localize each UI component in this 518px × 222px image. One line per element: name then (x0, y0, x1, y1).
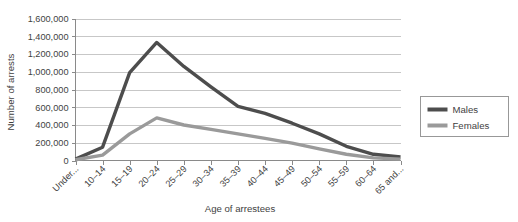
line-chart: 0200,000400,000600,000800,0001,000,0001,… (0, 0, 518, 222)
y-tick-label: 400,000 (35, 120, 68, 130)
y-axis-title: Number of arrests (5, 53, 16, 130)
x-tick-label: 55–59 (326, 164, 351, 189)
x-tick-label: 40–44 (245, 164, 270, 189)
y-tick-label: 600,000 (35, 103, 68, 113)
x-tick-label: 50–54 (299, 164, 324, 189)
gridlines (76, 20, 401, 144)
series-line-males (76, 42, 401, 159)
x-tick-label: 20–24 (137, 164, 162, 189)
y-tick-label: 800,000 (35, 85, 68, 95)
x-axis-tick-labels: Under...10–1415–1920–2425–2930–3435–3940… (51, 164, 406, 196)
x-tick-label: 30–34 (191, 164, 216, 189)
y-tick-label: 1,000,000 (28, 67, 69, 77)
chart-container: 0200,000400,000600,000800,0001,000,0001,… (0, 0, 518, 222)
x-tick-label: 35–39 (218, 164, 243, 189)
series-line-females (76, 118, 401, 160)
x-tick-label: 15–19 (109, 164, 134, 189)
data-series (76, 42, 401, 159)
x-tick-label: 60–64 (353, 164, 378, 189)
y-tick-label: 1,400,000 (28, 32, 69, 42)
y-tick-label: 200,000 (35, 138, 68, 148)
y-axis-tick-labels: 0200,000400,000600,000800,0001,000,0001,… (28, 14, 69, 166)
x-axis-title: Age of arrestees (205, 203, 276, 214)
x-tick-label: 65 and... (373, 164, 405, 196)
x-tick-label: 45–49 (272, 164, 297, 189)
x-tick-label: Under... (51, 164, 81, 194)
y-tick-label: 0 (63, 156, 68, 166)
x-tick-label: 25–29 (164, 164, 189, 189)
y-tick-label: 1,600,000 (28, 14, 69, 24)
x-tick-label: 10–14 (82, 164, 107, 189)
legend-label-females: Females (453, 120, 490, 131)
chart-legend: MalesFemales (421, 97, 509, 137)
legend-label-males: Males (453, 104, 479, 115)
y-tick-label: 1,200,000 (28, 49, 69, 59)
